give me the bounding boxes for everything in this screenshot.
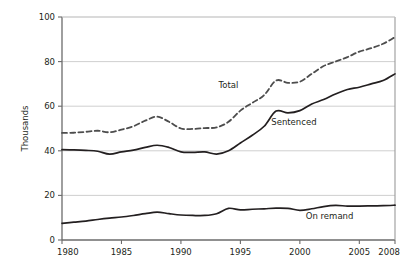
x-tick-label-2005: 2005 bbox=[349, 247, 371, 257]
series-label-total: Total bbox=[218, 80, 239, 90]
y-axis-ticks: 020406080100 bbox=[39, 12, 62, 245]
x-axis-ticks: 1980198519901995200020052008 bbox=[57, 240, 400, 257]
y-axis-title: Thousands bbox=[20, 105, 30, 153]
y-tick-label-80: 80 bbox=[44, 57, 55, 67]
y-axis-title-group: Thousands bbox=[20, 105, 30, 153]
x-tick-label-2000: 2000 bbox=[289, 247, 311, 257]
series-label-on-remand: On remand bbox=[306, 211, 354, 221]
y-tick-label-20: 20 bbox=[44, 190, 55, 200]
y-tick-label-60: 60 bbox=[44, 101, 55, 111]
gridlines-group bbox=[62, 17, 395, 195]
x-tick-label-1980: 1980 bbox=[57, 247, 79, 257]
x-tick-label-1990: 1990 bbox=[170, 247, 192, 257]
line-chart: 020406080100 198019851990199520002005200… bbox=[0, 0, 419, 272]
chart-container: 020406080100 198019851990199520002005200… bbox=[0, 0, 419, 272]
x-tick-label-2008: 2008 bbox=[378, 247, 400, 257]
x-tick-label-1985: 1985 bbox=[111, 247, 133, 257]
y-tick-label-0: 0 bbox=[50, 235, 55, 245]
series-label-sentenced: Sentenced bbox=[271, 117, 316, 127]
y-tick-label-40: 40 bbox=[44, 146, 55, 156]
y-tick-label-100: 100 bbox=[39, 12, 55, 22]
x-tick-label-1995: 1995 bbox=[230, 247, 252, 257]
